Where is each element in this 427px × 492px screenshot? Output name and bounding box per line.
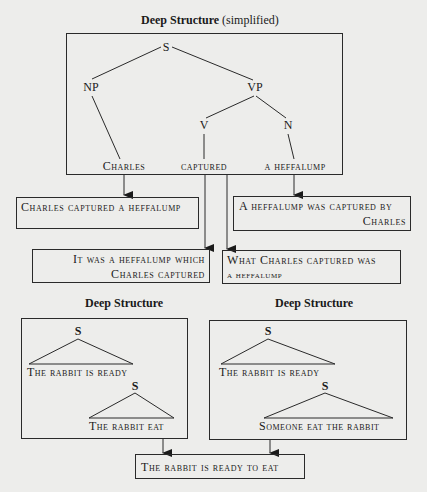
node-v: V (200, 119, 209, 131)
pseudo-cleft-line-1: What Charles captured was (227, 252, 376, 268)
title-qualifier: (simplified) (222, 13, 279, 27)
active-sentence: Charles captured a heffalump (21, 199, 181, 215)
lower-right-clause-top: The rabbit is ready (219, 366, 320, 378)
ambiguous-sentence: The rabbit is ready to eat (141, 459, 279, 475)
active-sentence-box: Charles captured a heffalump (16, 197, 199, 229)
lower-right-s-embedded: S (322, 380, 329, 392)
lower-right-s-top: S (265, 325, 272, 337)
passive-line-2: Charles (363, 213, 406, 229)
leaf-heffalump: a heffalump (264, 160, 325, 172)
node-n: N (284, 119, 293, 131)
leaf-captured: captured (181, 160, 227, 172)
cleft-sentence-box: It was a heffalump which Charles capture… (32, 249, 210, 283)
node-s: S (163, 41, 170, 53)
leaf-charles: Charles (103, 160, 146, 172)
ambiguous-sentence-box: The rabbit is ready to eat (135, 454, 305, 479)
node-vp: VP (247, 81, 262, 93)
deep-structure-box (66, 33, 343, 175)
lower-left-s-embedded: S (132, 380, 139, 392)
top-diagram-title: Deep Structure (simplified) (141, 14, 279, 26)
node-np: NP (83, 81, 98, 93)
pseudo-cleft-sentence-box: What Charles captured was a heffalump (222, 250, 401, 284)
title-bold: Deep Structure (141, 13, 219, 27)
lower-left-title: Deep Structure (85, 297, 163, 309)
lower-right-title: Deep Structure (275, 297, 353, 309)
cleft-line-1: It was a heffalump which (73, 251, 205, 267)
cleft-line-2: Charles captured (111, 266, 205, 282)
lower-left-clause-top: The rabbit is ready (27, 366, 128, 378)
passive-sentence-box: A heffalump was captured by Charles (233, 196, 411, 231)
pseudo-cleft-line-2: a heffalump (227, 267, 282, 283)
lower-left-clause-embedded: The rabbit eat (89, 420, 164, 432)
passive-line-1: A heffalump was captured by (239, 198, 392, 214)
lower-left-s-top: S (75, 325, 82, 337)
lower-right-clause-embedded: Someone eat the rabbit (259, 420, 379, 432)
